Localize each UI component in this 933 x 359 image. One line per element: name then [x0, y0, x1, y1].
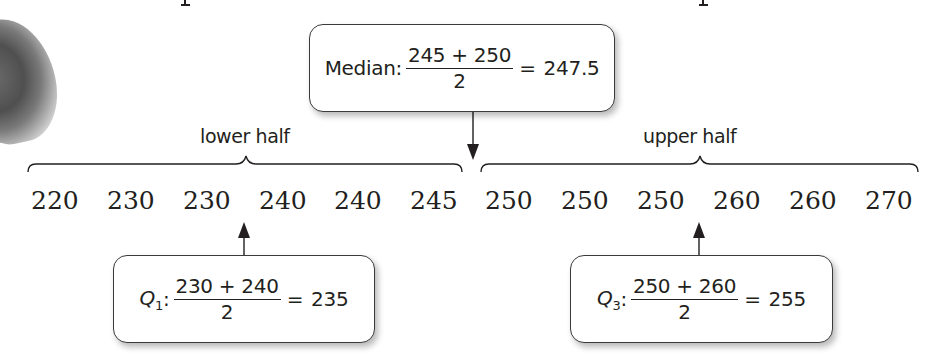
q3-equals: =: [744, 287, 760, 311]
median-callout: Median: 245 + 250 2 = 247.5: [309, 24, 615, 112]
data-value: 240: [334, 186, 382, 215]
q1-subscript: 1: [155, 298, 163, 313]
median-label: Median:: [325, 56, 402, 80]
data-value: 230: [107, 186, 155, 215]
q3-arrow-icon: [693, 222, 705, 256]
q3-denominator: 2: [678, 300, 690, 323]
q3-numerator: 250 + 260: [631, 276, 738, 300]
upper-half-brace: [481, 156, 918, 172]
q1-label: Q1: [140, 286, 163, 313]
data-value: 250: [561, 186, 609, 215]
data-value: 240: [259, 186, 307, 215]
median-denominator: 2: [453, 69, 465, 92]
median-fraction: 245 + 250 2: [406, 45, 513, 92]
decorative-photo: [0, 11, 67, 151]
data-value: 260: [789, 186, 837, 215]
lower-half-label: lower half: [200, 125, 290, 147]
median-arrow-icon: [467, 112, 479, 160]
q3-label: Q3: [597, 286, 620, 313]
upper-half-label: upper half: [643, 125, 736, 147]
q1-colon: :: [163, 287, 169, 311]
median-result: 247.5: [544, 56, 600, 80]
lower-half-brace: [28, 156, 462, 172]
q3-fraction: 250 + 260 2: [631, 276, 738, 323]
data-value: 230: [183, 186, 231, 215]
q1-denominator: 2: [221, 300, 233, 323]
q1-equals: =: [287, 287, 303, 311]
q3-colon: :: [621, 287, 627, 311]
q3-callout: Q3: 250 + 260 2 = 255: [570, 255, 833, 343]
clipped-text-line: [0, 0, 933, 6]
q1-result: 235: [311, 287, 348, 311]
data-values-row: 220 230 230 240 240 245 250 250 250 260 …: [0, 186, 933, 220]
q3-subscript: 3: [613, 298, 621, 313]
data-value: 260: [713, 186, 761, 215]
data-value: 245: [410, 186, 458, 215]
data-value: 250: [485, 186, 533, 215]
median-numerator: 245 + 250: [406, 45, 513, 69]
q1-callout: Q1: 230 + 240 2 = 235: [113, 255, 375, 343]
data-value: 270: [865, 186, 913, 215]
data-value: 220: [31, 186, 79, 215]
q3-result: 255: [769, 287, 806, 311]
q1-arrow-icon: [238, 222, 250, 256]
q1-fraction: 230 + 240 2: [174, 276, 281, 323]
median-equals: =: [519, 56, 535, 80]
data-value: 250: [637, 186, 685, 215]
q1-numerator: 230 + 240: [174, 276, 281, 300]
